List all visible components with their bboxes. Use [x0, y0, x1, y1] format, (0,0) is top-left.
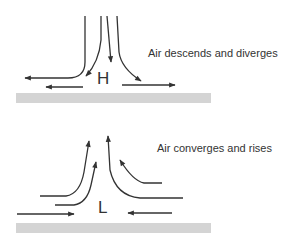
diverging-flow-left-outer-arrow: [25, 16, 85, 78]
high-pressure-panel: H Air descends and diverges: [16, 16, 278, 103]
low-pressure-symbol: L: [98, 198, 107, 217]
converging-flow-right-inner-arrow: [120, 160, 162, 183]
low-pressure-panel: L Air converges and rises: [16, 136, 272, 233]
converging-flow-left-inner-arrow: [55, 162, 96, 205]
high-pressure-symbol: H: [97, 69, 109, 88]
diverging-flow-right-arrow: [117, 16, 141, 81]
pressure-systems-diagram: H Air descends and diverges L Air conver…: [0, 0, 289, 242]
ground-surface-high: [16, 93, 211, 103]
converging-flow-left-outer-arrow: [40, 141, 89, 196]
ground-surface-low: [16, 223, 211, 233]
descending-flow-center-arrow: [107, 16, 111, 62]
low-pressure-caption: Air converges and rises: [157, 142, 272, 154]
diverging-flow-left-inner-arrow: [86, 16, 101, 76]
high-pressure-caption: Air descends and diverges: [148, 47, 278, 59]
